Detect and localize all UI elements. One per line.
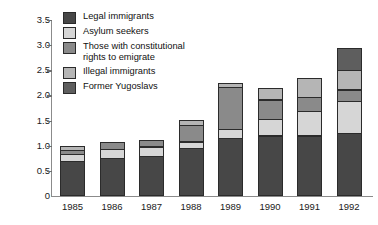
y-axis-tick-label: 2.5 — [18, 64, 50, 76]
bar-segment — [337, 70, 362, 90]
legend-item[interactable]: Those with constitutional rights to emig… — [63, 41, 273, 63]
bar-segment — [337, 101, 362, 134]
y-axis-tick-mark — [47, 171, 52, 172]
y-axis-tick-label: 3.0 — [18, 39, 50, 51]
legend-color-swatch — [63, 42, 76, 54]
y-axis-tick-label: 0.5 — [18, 165, 50, 177]
legend-color-swatch — [63, 27, 76, 39]
legend-item[interactable]: Former Yugoslavs — [63, 81, 273, 94]
bar-segment — [297, 97, 322, 112]
bar-segment — [100, 158, 125, 196]
x-axis-tick-label: 1985 — [51, 201, 95, 213]
bar-stack — [218, 83, 243, 196]
bar-segment — [218, 138, 243, 196]
legend-item-label: Those with constitutional rights to emig… — [83, 41, 185, 63]
bar-segment — [297, 111, 322, 136]
bar-segment — [179, 148, 204, 196]
legend-item[interactable]: Legal immigrants — [63, 11, 273, 24]
bar-stack — [60, 146, 85, 196]
y-axis-tick-label: 3.5 — [18, 14, 50, 26]
bar-segment — [337, 48, 362, 71]
legend-item[interactable]: Asylum seekers — [63, 26, 273, 39]
legend-color-swatch — [63, 82, 76, 94]
bar-stack — [297, 78, 322, 196]
y-axis-tick-label: 0 — [18, 190, 50, 202]
legend-item-label: Illegal immigrants — [83, 66, 155, 77]
bar-segment — [60, 161, 85, 196]
x-axis-tick-label: 1989 — [209, 201, 253, 213]
bar-segment — [258, 100, 283, 120]
bar-segment — [258, 119, 283, 137]
y-axis-tick-mark — [47, 146, 52, 147]
y-axis-tick-mark — [47, 121, 52, 122]
bar-stack — [258, 88, 283, 196]
x-axis-tick-label: 1988 — [169, 201, 213, 213]
bar-segment — [297, 78, 322, 98]
bar-segment — [297, 136, 322, 196]
bar-segment — [139, 156, 164, 196]
bar-segment — [179, 125, 204, 143]
y-axis-tick-mark — [47, 45, 52, 46]
y-axis-tick-label: 1.0 — [18, 140, 50, 152]
x-axis-tick-label: 1987 — [130, 201, 174, 213]
bar-stack — [179, 120, 204, 196]
x-axis-tick-label: 1990 — [248, 201, 292, 213]
bar-stack — [139, 140, 164, 196]
legend-color-swatch — [63, 12, 76, 24]
y-axis-tick-label: 2.0 — [18, 89, 50, 101]
legend-item-label: Legal immigrants — [83, 11, 154, 22]
y-axis-tick-label: 1.5 — [18, 115, 50, 127]
legend-item-label: Former Yugoslavs — [83, 81, 158, 92]
bar-segment — [258, 136, 283, 196]
bar-stack — [337, 48, 362, 196]
y-axis-tick-mark — [47, 20, 52, 21]
legend-item-label: Asylum seekers — [83, 26, 149, 37]
chart-legend: Legal immigrantsAsylum seekersThose with… — [63, 11, 273, 96]
bar-segment — [337, 133, 362, 196]
bar-segment — [337, 90, 362, 103]
x-axis-tick-label: 1991 — [288, 201, 332, 213]
stacked-bar-chart: Emigrants in millions 00.51.01.52.02.53.… — [0, 0, 378, 225]
x-axis-tick-label: 1992 — [327, 201, 371, 213]
bar-stack — [100, 142, 125, 196]
legend-item[interactable]: Illegal immigrants — [63, 66, 273, 79]
y-axis-labels: 00.51.01.52.02.53.03.5 — [18, 0, 50, 225]
legend-color-swatch — [63, 67, 76, 79]
x-axis-tick-label: 1986 — [90, 201, 134, 213]
y-axis-tick-mark — [47, 70, 52, 71]
y-axis-tick-mark — [47, 95, 52, 96]
